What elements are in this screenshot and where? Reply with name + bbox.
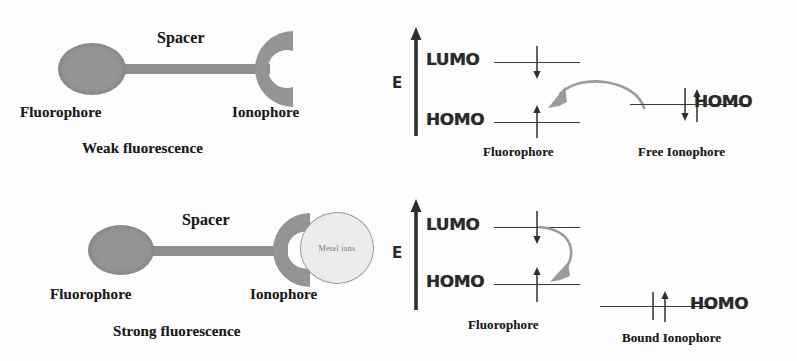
energy-axis-label: E [392,244,402,262]
metal-ions-label: Metal ions [319,244,356,253]
weak-fluorescence-caption: Weak fluorescence [82,140,203,157]
donor-homo-label: HOMO [694,92,752,111]
fluorophore-ellipse [88,225,154,275]
figure-canvas: Spacer Fluorophore Ionophore Weak fluore… [0,0,797,361]
donor-electron-spin-down [680,88,690,122]
panel-bound-ionophore-energy: E LUMO HOMO [390,180,797,361]
fluorophore-caption: Fluorophore [483,144,554,160]
spacer-bar [118,64,270,74]
ionophore-label: Ionophore [250,286,317,303]
lumo-label: LUMO [426,215,480,234]
panel-weak-fluorescence: Spacer Fluorophore Ionophore Weak fluore… [0,0,390,180]
ionophore-label: Ionophore [232,104,299,121]
spacer-label: Spacer [182,211,230,229]
fluorophore-caption: Fluorophore [468,317,539,333]
free-ionophore-caption: Free Ionophore [638,144,725,160]
panel-strong-fluorescence: Metal ions Spacer Fluorophore Ionophore … [0,180,390,361]
fluorophore-label: Fluorophore [20,104,101,121]
homo-label: HOMO [426,272,484,291]
energy-axis-label: E [392,74,402,92]
panel-free-ionophore-energy: E LUMO HOMO [390,0,797,180]
relaxation-arrow [534,224,586,290]
donor-homo-label: HOMO [690,294,748,313]
metal-ion-sphere: Metal ions [300,212,374,284]
ionophore-crescent [252,28,308,110]
lumo-label: LUMO [426,50,480,69]
spacer-label: Spacer [157,29,205,47]
spacer-bar [148,246,288,256]
donor-electron-spin-down [648,292,658,322]
strong-fluorescence-caption: Strong fluorescence [113,323,241,340]
energy-axis-arrow [408,198,424,310]
fluorophore-ellipse [58,43,126,95]
electron-transfer-arrow [540,74,650,120]
homo-label: HOMO [426,110,484,129]
donor-electron-spin-up [660,290,670,322]
bound-ionophore-caption: Bound Ionophore [622,330,721,346]
energy-axis-arrow [408,26,424,136]
fluorophore-label: Fluorophore [50,286,131,303]
